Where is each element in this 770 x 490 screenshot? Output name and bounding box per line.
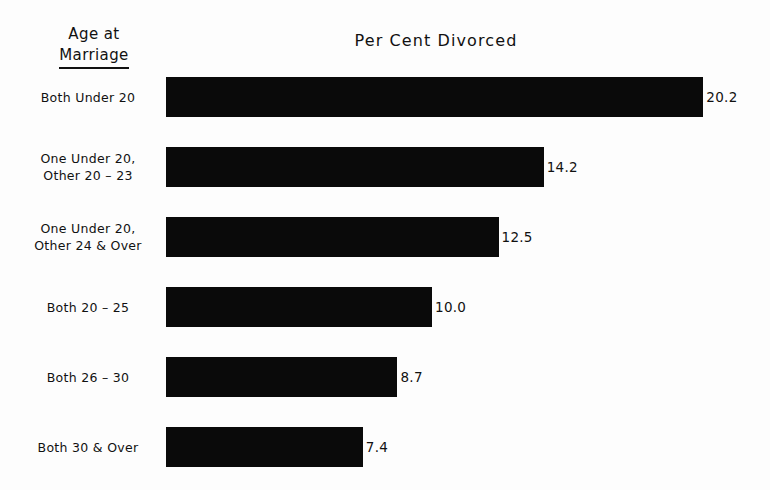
chart-title: Per Cent Divorced xyxy=(166,31,706,50)
bar-row: One Under 20, Other 24 & Over12.5 xyxy=(0,217,770,257)
category-header-line2: Marriage xyxy=(59,45,129,69)
bar-value-label: 7.4 xyxy=(363,439,388,455)
category-header-line1: Age at xyxy=(28,24,160,45)
bar xyxy=(166,217,499,257)
bar xyxy=(166,287,432,327)
category-label: Both 30 & Over xyxy=(18,439,158,456)
bar xyxy=(166,147,544,187)
category-axis-header: Age at Marriage xyxy=(28,24,160,69)
bar xyxy=(166,77,703,117)
bar-value-label: 10.0 xyxy=(432,299,466,315)
bar xyxy=(166,427,363,467)
category-label: Both 20 – 25 xyxy=(18,299,158,316)
bar xyxy=(166,357,397,397)
bar-value-label: 12.5 xyxy=(499,229,533,245)
bar-row: Both 20 – 2510.0 xyxy=(0,287,770,327)
category-label: One Under 20, Other 20 – 23 xyxy=(18,150,158,184)
category-label: One Under 20, Other 24 & Over xyxy=(18,220,158,254)
category-label: Both Under 20 xyxy=(18,89,158,106)
bar-row: One Under 20, Other 20 – 2314.2 xyxy=(0,147,770,187)
bar-row: Both 30 & Over7.4 xyxy=(0,427,770,467)
bar-value-label: 20.2 xyxy=(703,89,737,105)
bar-value-label: 14.2 xyxy=(544,159,578,175)
category-label: Both 26 – 30 xyxy=(18,369,158,386)
chart-page: Age at Marriage Per Cent Divorced Both U… xyxy=(0,0,770,490)
bar-row: Both Under 2020.2 xyxy=(0,77,770,117)
bar-row: Both 26 – 308.7 xyxy=(0,357,770,397)
bar-value-label: 8.7 xyxy=(397,369,422,385)
